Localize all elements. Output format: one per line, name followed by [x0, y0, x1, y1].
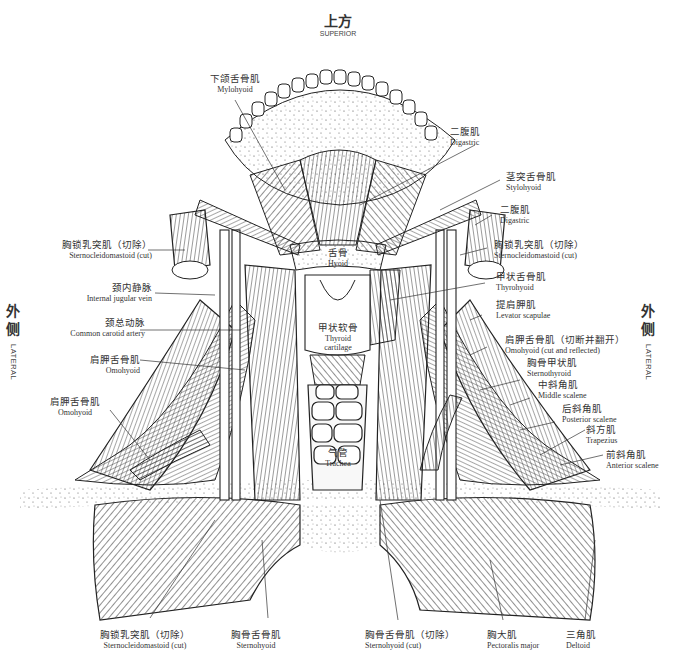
label-deltoid: 三角肌 Deltoid	[566, 630, 596, 650]
label-en: Deltoid	[566, 641, 596, 650]
label-zh: 甲状软骨	[305, 323, 371, 334]
label-zh: 胸锁乳突肌（切除）	[60, 240, 152, 251]
label-anterior-scalene: 前斜角肌 Anterior scalene	[606, 450, 659, 470]
label-en: Thyrohyoid	[496, 283, 546, 292]
label-pectoralis-major: 胸大肌 Pectoralis major	[487, 630, 539, 650]
label-mylohyoid: 下颌舌骨肌 Mylohyoid	[200, 74, 270, 94]
label-en: Hyoid	[318, 259, 358, 268]
label-digastric-right: 二腹肌 Digastric	[500, 205, 530, 225]
lateral-right-zh1: 外	[638, 303, 658, 321]
label-zh: 肩胛舌骨肌（切断并翻开）	[505, 335, 625, 346]
label-en: Pectoralis major	[487, 641, 539, 650]
label-zh: 肩胛舌骨肌	[40, 397, 110, 408]
pectoralis-left	[93, 498, 300, 621]
label-en: cartilage	[305, 343, 371, 352]
label-zh: 斜方肌	[586, 425, 617, 436]
label-trapezius: 斜方肌 Trapezius	[586, 425, 617, 445]
label-zh: 三角肌	[566, 630, 596, 641]
label-en: Trachea	[318, 459, 358, 468]
thyrohyoid-right	[370, 270, 400, 345]
label-en: Sternothyroid	[527, 369, 577, 378]
label-zh: 肩胛舌骨肌	[80, 355, 140, 366]
label-omohyoid-left-1: 肩胛舌骨肌 Omohyoid	[80, 355, 140, 375]
lateral-right-en: LATERAL	[644, 344, 653, 380]
label-sternohyoid: 胸骨舌骨肌 Sternohyoid	[225, 630, 287, 650]
label-en: Middle scalene	[538, 391, 587, 400]
sternum-region	[300, 505, 380, 553]
label-en: Sternocleidomastoid (cut)	[60, 251, 152, 260]
label-en: Sternocleidomastoid (cut)	[494, 251, 584, 260]
lateral-right-zh2: 侧	[638, 321, 658, 339]
label-scm-cut-left: 胸锁乳突肌（切除） Sternocleidomastoid (cut)	[60, 240, 152, 260]
label-zh: 颈总动脉	[40, 318, 145, 329]
lateral-left-zh2: 侧	[3, 321, 23, 339]
label-scm-cut-bottom: 胸锁乳突肌（切除） Sternocleidomastoid (cut)	[85, 630, 205, 650]
label-zh: 二腹肌	[450, 127, 480, 138]
label-zh: 二腹肌	[500, 205, 530, 216]
trachea	[308, 385, 367, 490]
label-en: Common carotid artery	[40, 329, 145, 338]
sternohyoid-left	[245, 265, 300, 500]
label-zh: 茎突舌骨肌	[506, 172, 556, 183]
label-zh: 后斜角肌	[562, 404, 616, 415]
label-thyroid-cartilage: 甲状软骨 Thyroid cartilage	[305, 323, 371, 352]
label-zh: 气管	[318, 448, 358, 459]
label-middle-scalene: 中斜角肌 Middle scalene	[538, 380, 587, 400]
scm-cut-end-left	[172, 261, 208, 279]
label-en: Omohyoid	[40, 408, 110, 417]
label-levator-scapulae: 提肩胛肌 Levator scapulae	[496, 300, 550, 320]
label-zh: 胸骨甲状肌	[527, 358, 577, 369]
superior-zh: 上方	[305, 13, 371, 30]
label-hyoid: 舌骨 Hyoid	[318, 248, 358, 268]
label-omohyoid-left-2: 肩胛舌骨肌 Omohyoid	[40, 397, 110, 417]
label-en: Anterior scalene	[606, 461, 659, 470]
label-en: Omohyoid	[80, 366, 140, 375]
label-zh: 胸锁乳突肌（切除）	[85, 630, 205, 641]
label-en: Thyroid	[305, 334, 371, 343]
label-trachea: 气管 Trachea	[318, 448, 358, 468]
label-en: Sternohyoid	[225, 641, 287, 650]
label-sternohyoid-cut: 胸骨舌骨肌（切除） Sternohyoid (cut)	[365, 630, 455, 650]
label-zh: 胸骨舌骨肌	[225, 630, 287, 641]
label-zh: 舌骨	[318, 248, 358, 259]
label-scm-cut-right: 胸锁乳突肌（切除） Sternocleidomastoid (cut)	[494, 240, 584, 260]
label-en: Sternocleidomastoid (cut)	[85, 641, 205, 650]
label-thyrohyoid: 甲状舌骨肌 Thyrohyoid	[496, 272, 546, 292]
label-omohyoid-reflected: 肩胛舌骨肌（切断并翻开） Omohyoid (cut and reflected…	[505, 335, 625, 355]
label-zh: 前斜角肌	[606, 450, 659, 461]
label-sternothyroid: 胸骨甲状肌 Sternothyroid	[527, 358, 577, 378]
lateral-left-zh1: 外	[3, 303, 23, 321]
label-en: Omohyoid (cut and reflected)	[505, 346, 625, 355]
label-en: Stylohyoid	[506, 183, 556, 192]
label-en: Digastric	[500, 216, 530, 225]
label-en: Digastric	[450, 138, 480, 147]
label-en: Internal jugular vein	[60, 294, 152, 303]
label-zh: 提肩胛肌	[496, 300, 550, 311]
label-en: Posterior scalene	[562, 415, 616, 424]
label-zh: 胸骨舌骨肌（切除）	[365, 630, 455, 641]
pectoralis-right	[380, 498, 595, 621]
label-en: Trapezius	[586, 436, 617, 445]
label-common-carotid: 颈总动脉 Common carotid artery	[40, 318, 145, 338]
superior-en: SUPERIOR	[305, 30, 371, 37]
label-zh: 胸锁乳突肌（切除）	[494, 240, 584, 251]
label-digastric-top: 二腹肌 Digastric	[450, 127, 480, 147]
cricothyroid	[310, 355, 365, 385]
label-zh: 胸大肌	[487, 630, 539, 641]
label-posterior-scalene: 后斜角肌 Posterior scalene	[562, 404, 616, 424]
label-internal-jugular: 颈内静脉 Internal jugular vein	[60, 283, 152, 303]
lateral-left-label: 外 侧 LATERAL	[3, 303, 23, 380]
label-en: Levator scapulae	[496, 311, 550, 320]
label-en: Mylohyoid	[200, 85, 270, 94]
label-stylohyoid: 茎突舌骨肌 Stylohyoid	[506, 172, 556, 192]
superior-label: 上方 SUPERIOR	[305, 13, 371, 37]
label-zh: 甲状舌骨肌	[496, 272, 546, 283]
label-zh: 下颌舌骨肌	[200, 74, 270, 85]
lateral-left-en: LATERAL	[9, 344, 18, 380]
label-zh: 中斜角肌	[538, 380, 587, 391]
label-en: Sternohyoid (cut)	[365, 641, 455, 650]
lateral-right-label: 外 侧 LATERAL	[638, 303, 658, 380]
label-zh: 颈内静脉	[60, 283, 152, 294]
